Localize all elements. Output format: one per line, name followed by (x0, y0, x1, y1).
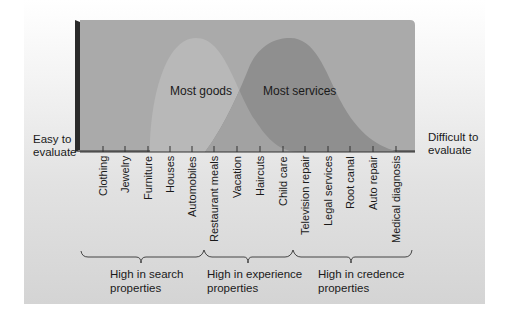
category-label: Houses (164, 156, 176, 193)
category-label: Automobiles (186, 156, 198, 217)
category-label: Root canal (344, 156, 356, 209)
brace-experience (204, 250, 293, 263)
group-braces (81, 250, 412, 263)
category-label: Restaurant meals (208, 156, 220, 242)
category-label: Clothing (97, 156, 109, 196)
category-label: Jewelry (119, 156, 131, 193)
category-label: Auto repair (367, 156, 379, 210)
group-label-credence: High in credence properties (318, 268, 404, 295)
category-label: Child care (277, 156, 289, 206)
goods-curve-label: Most goods (170, 84, 232, 98)
difficult-to-evaluate-label: Difficult to evaluate (428, 131, 478, 157)
category-label: Medical diagnosis (390, 156, 402, 243)
brace-credence (293, 250, 412, 263)
group-label-experience: High in experience properties (207, 268, 302, 295)
category-label: Vacation (231, 156, 243, 198)
category-label: Television repair (299, 156, 311, 235)
category-label: Legal services (322, 156, 334, 226)
group-label-search: High in search properties (110, 268, 184, 295)
category-label: Furniture (142, 156, 154, 200)
category-label: Haircuts (254, 156, 266, 196)
services-curve-label: Most services (263, 84, 336, 98)
easy-to-evaluate-label: Easy to evaluate (33, 133, 76, 159)
brace-search (81, 250, 204, 263)
